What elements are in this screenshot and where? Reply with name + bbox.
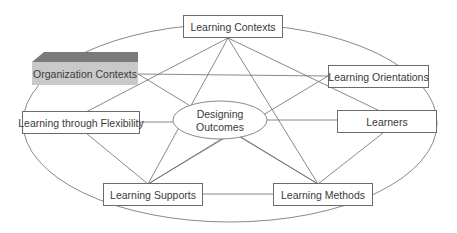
node-organization-contexts: Organization Contexts — [32, 62, 138, 85]
node-learning-orientations: Learning Orientations — [328, 65, 429, 88]
connector-line — [318, 133, 383, 184]
connector-line — [148, 138, 223, 184]
org-box-top — [32, 52, 138, 62]
node-learners: Learners — [337, 110, 437, 133]
center-node-label: Designing Outcomes — [180, 108, 260, 134]
node-learning-methods: Learning Methods — [273, 183, 373, 206]
node-learning-supports: Learning Supports — [103, 183, 203, 206]
node-learning-contexts: Learning Contexts — [183, 15, 283, 38]
connector-line — [138, 74, 328, 76]
connector-line — [86, 133, 148, 184]
connector-line — [240, 137, 318, 184]
node-learning-through-flexibility: Learning through Flexibility — [22, 111, 140, 134]
center-line-1: Designing — [180, 108, 260, 121]
center-line-2: Outcomes — [180, 121, 260, 134]
